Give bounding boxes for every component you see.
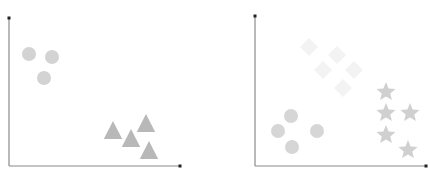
scatter-plot-left: [0, 0, 215, 178]
scatter-plot-right: [215, 0, 430, 178]
triangle-marker: [104, 121, 122, 139]
star-marker: [377, 82, 396, 100]
x-axis-end-marker: [179, 165, 182, 168]
circle-marker: [284, 109, 298, 123]
triangle-marker: [137, 114, 155, 132]
diamond-marker: [328, 46, 346, 64]
x-axis-end-marker: [425, 165, 428, 168]
circle-marker: [271, 124, 285, 138]
circle-marker: [285, 140, 299, 154]
scatter-panel-left: [0, 0, 215, 178]
circle-marker: [22, 47, 36, 61]
star-marker: [401, 103, 420, 121]
circle-marker: [37, 71, 51, 85]
diamond-marker: [345, 61, 363, 79]
diamond-marker: [314, 61, 332, 79]
triangle-marker: [140, 141, 158, 159]
diamond-marker: [300, 38, 318, 56]
star-marker: [377, 103, 396, 121]
y-axis-end-marker: [254, 15, 257, 18]
y-axis-end-marker: [8, 17, 11, 20]
circle-marker: [45, 50, 59, 64]
star-marker: [399, 140, 418, 158]
circle-marker: [310, 124, 324, 138]
scatter-panel-right: [215, 0, 430, 178]
star-marker: [377, 125, 396, 143]
diamond-marker: [334, 79, 352, 97]
